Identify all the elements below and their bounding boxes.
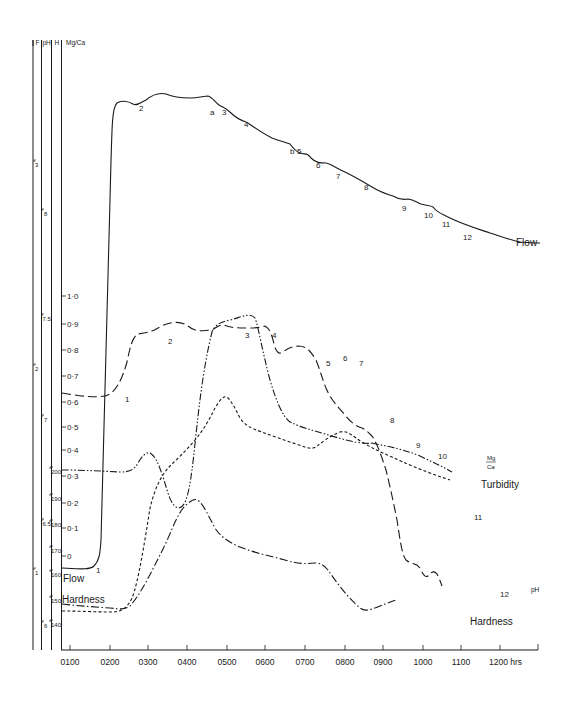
x-tick-label: 0700: [296, 657, 315, 667]
flow-tick: 1: [35, 570, 39, 576]
mgca-axis-header: Mg/Ca: [66, 39, 86, 47]
mgca-series-line: [62, 315, 372, 508]
x-tick-label: 0100: [61, 657, 80, 667]
flow-point-label: 6: [316, 161, 321, 170]
flow-point-label: 11: [442, 220, 451, 229]
x-tick-label: 0400: [178, 657, 197, 667]
ph-point-labels: 1 2 3 4 5 6 7 8 9 10 11 12 pH: [125, 331, 540, 599]
hardness-tick: 190: [51, 496, 62, 502]
mgca-tick: 0·5: [67, 423, 79, 432]
flow-point-label: 9: [402, 204, 407, 213]
hardness-axis-header: H: [55, 39, 60, 46]
hardness-tick: 160: [51, 572, 62, 578]
ph-axis-ticks: 8 7.5 7 6.5 6: [42, 209, 52, 629]
flow-point-label: 1: [96, 566, 101, 575]
ph-series-line: [62, 322, 442, 586]
ph-point-label: 7: [359, 359, 364, 368]
mgca-tick: 1·0: [67, 292, 79, 301]
x-tick-label: 0800: [336, 657, 355, 667]
flow-axis-ticks: 3 2 1: [34, 160, 39, 576]
x-tick-label: 1100: [452, 657, 471, 667]
hardness-series-label: Hardness: [470, 616, 513, 627]
ca-label: Ca: [487, 464, 495, 470]
flow-tick: 2: [35, 366, 39, 372]
hardness-tick: 200: [51, 469, 62, 475]
flow-axis-label: Flow: [63, 573, 85, 584]
mgca-series-label: Mg Ca: [486, 455, 496, 470]
ph-point-label: 3: [245, 331, 250, 340]
flow-point-label: 4: [244, 120, 249, 129]
flow-point-label: a: [210, 108, 215, 117]
ph-point-label: 6: [343, 354, 348, 363]
x-tick-label: 1200 hrs: [489, 657, 522, 667]
ph-point-label: 8: [390, 416, 395, 425]
ph-tick: 6: [44, 623, 48, 629]
mgca-tick: 0·4: [67, 446, 79, 455]
x-tick-label: 0300: [139, 657, 158, 667]
ph-point-label: 11: [474, 513, 483, 522]
mgca-tick: 0·2: [67, 499, 79, 508]
flow-point-labels: 1 2 a 3 4 b 5 6 7 8 9 10 11 12: [96, 104, 472, 575]
ph-point-label: 1: [125, 395, 130, 404]
mgca-tick: 0·7: [67, 372, 79, 381]
ph-point-label: 12: [500, 590, 509, 599]
ph-point-label: 2: [168, 337, 173, 346]
mgca-tick: 0: [67, 552, 72, 561]
flow-tick: 3: [35, 162, 39, 168]
mgca-tick: 0·1: [67, 524, 79, 533]
mgca-tick: 0·3: [67, 472, 79, 481]
x-tick-label: 0200: [101, 657, 120, 667]
x-tick-label: 0500: [218, 657, 237, 667]
ph-point-label: 9: [416, 441, 421, 450]
ph-point-label: 10: [438, 452, 447, 461]
ph-end-label: pH: [531, 586, 540, 594]
hardness-tick: 140: [51, 622, 62, 628]
flow-point-label: 7: [336, 172, 341, 181]
hardness-tick: 170: [51, 548, 62, 554]
flow-point-label: b: [290, 147, 295, 156]
hardness-series-line: [62, 499, 396, 610]
mgca-axis-ticks: 1·0 0·9 0·8 0·7 0·6 0·5 0·4 0·3 0·2 0·1 …: [62, 292, 79, 561]
ph-point-label: 4: [272, 331, 277, 340]
mgca-tick: 0·9: [67, 320, 79, 329]
flow-point-label: 5: [297, 147, 302, 156]
flow-point-label: 2: [139, 104, 144, 113]
hardness-tick: 150: [51, 598, 62, 604]
flow-series-line: [62, 93, 540, 569]
flow-point-label: 3: [222, 108, 227, 117]
hardness-tick: 180: [51, 522, 62, 528]
flow-axis-header: F: [36, 39, 40, 46]
left-axes: [33, 40, 62, 650]
ph-tick: 8: [44, 211, 48, 217]
ph-tick: 7.5: [43, 316, 52, 322]
hardness-axis-label: Hardness: [62, 594, 105, 605]
ph-point-label: 5: [326, 359, 331, 368]
x-tick-label: 1000: [414, 657, 433, 667]
mg-label: Mg: [487, 455, 495, 461]
chart-canvas: F pH H Mg/Ca 3 2 1 8 7.5 7 6.5 6 200 190…: [0, 0, 568, 701]
flow-point-label: 10: [424, 211, 433, 220]
ph-axis-header: pH: [43, 39, 52, 47]
x-tick-label: 0600: [256, 657, 275, 667]
turbidity-series-label: Turbidity: [481, 479, 519, 490]
x-axis: 0100 0200 0300 0400 0500 0600 0700 0800 …: [61, 644, 538, 667]
x-tick-label: 0900: [374, 657, 393, 667]
mgca-tick: 0·6: [67, 398, 79, 407]
mgca-tick: 0·8: [67, 346, 79, 355]
turbidity-series-line: [62, 397, 450, 612]
flow-point-label: 12: [463, 233, 472, 242]
flow-point-label: 8: [364, 183, 369, 192]
ph-tick: 7: [44, 417, 48, 423]
flow-series-label: Flow: [516, 237, 538, 248]
